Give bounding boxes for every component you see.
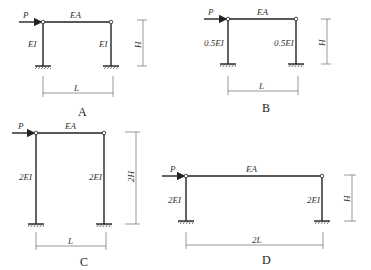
left-column-label: 0.5EI [204,38,225,48]
frame-b: P EA 0.5EI 0.5EI H L B [204,7,331,115]
load-label: P [169,164,176,174]
hinge-icon [226,17,230,21]
frame-d: P EA 2EI 2EI H 2L D [162,164,356,267]
span-label: L [67,236,73,246]
caption: D [262,253,271,267]
caption: B [262,101,270,115]
span-label: L [73,83,79,93]
caption: C [80,255,88,269]
left-column-label: EI [27,39,37,49]
span-label: 2L [252,235,262,245]
support-hatch [96,224,112,227]
height-label: H [342,195,352,203]
hinge-icon [34,131,38,135]
right-column-label: 2EI [307,195,321,205]
left-column-label: 2EI [168,195,182,205]
support-hatch [28,224,44,227]
right-column-label: EI [98,39,108,49]
hinge-icon [320,174,324,178]
hinge-icon [294,17,298,21]
support-hatch [288,64,304,67]
beam-label: EA [64,121,76,131]
right-column-label: 0.5EI [274,38,295,48]
support-hatch [103,66,119,69]
hinge-icon [102,131,106,135]
load-label: P [207,7,214,17]
beam-label: EA [256,7,268,17]
load-label: P [17,121,24,131]
right-column-label: 2EI [89,172,103,182]
height-label: H [133,41,143,49]
hinge-icon [109,20,113,24]
height-label: H [317,39,327,47]
support-hatch [35,66,51,69]
beam-label: EA [245,164,257,174]
beam-label: EA [69,10,81,20]
hinge-icon [184,174,188,178]
support-hatch [220,64,236,67]
height-label: 2H [126,171,136,183]
support-hatch [178,221,194,224]
frame-c: P EA 2EI 2EI 2H L C [12,121,140,269]
frame-a: P EA EI EI H L A [19,10,147,119]
support-hatch [314,221,330,224]
hinge-icon [41,20,45,24]
load-label: P [22,10,29,20]
span-label: L [258,81,264,91]
caption: A [78,105,87,119]
left-column-label: 2EI [19,172,33,182]
